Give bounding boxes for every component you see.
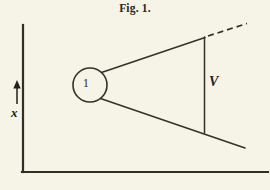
figure-drawing [0, 0, 270, 190]
upper-wedge-line [102, 38, 206, 73]
axis-label-x: x [11, 105, 18, 121]
figure-container: Fig. 1. 1 V x [0, 0, 270, 190]
body-label: 1 [83, 77, 89, 89]
up-arrow-icon [13, 80, 20, 89]
velocity-label: V [209, 74, 218, 90]
dashed-extension-line [208, 24, 247, 37]
lower-wedge-line [101, 99, 246, 149]
